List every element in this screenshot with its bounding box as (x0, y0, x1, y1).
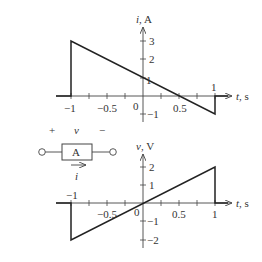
bottom-ytick-neg2: −2 (147, 234, 159, 246)
top-ytick-1: 1 (146, 74, 152, 86)
current-label: i (75, 170, 78, 182)
bottom-xtick-0: 0 (134, 206, 140, 218)
top-xtick-0: 0 (133, 100, 139, 112)
bottom-ytick-2: 2 (149, 161, 155, 173)
bottom-ytick-neg1: −1 (147, 215, 159, 227)
bottom-ytick-1: 1 (149, 179, 155, 191)
current-plot: i, A t, s −1 −0.5 0 0.5 1 3 2 1 −1 (56, 13, 249, 122)
top-x-label: t, s (236, 90, 249, 102)
bottom-xtick-neg05: −0.5 (97, 208, 117, 220)
bottom-x-label: t, s (236, 197, 249, 209)
bottom-xtick-neg1: −1 (66, 189, 78, 201)
top-ytick-3: 3 (149, 35, 155, 47)
top-ytick-neg1: −1 (147, 108, 159, 120)
minus-sign: − (99, 124, 105, 136)
left-terminal (39, 149, 46, 156)
voltage-waveform (56, 167, 228, 240)
top-xtick-neg1: −1 (64, 102, 76, 114)
current-waveform (56, 41, 228, 114)
top-y-label: i, A (136, 13, 152, 25)
top-xtick-05: 0.5 (173, 102, 187, 114)
element-label: A (72, 146, 80, 158)
figure: i, A t, s −1 −0.5 0 0.5 1 3 2 1 −1 + v −… (0, 0, 262, 262)
bottom-xtick-1: 1 (212, 208, 218, 220)
bottom-xtick-05: 0.5 (172, 208, 186, 220)
top-xtick-1: 1 (211, 81, 217, 93)
voltage-label: v (74, 124, 79, 136)
right-terminal (110, 149, 117, 156)
top-ytick-2: 2 (149, 53, 155, 65)
bottom-y-label: v, V (136, 140, 154, 152)
circuit-element: + v − A i (39, 124, 117, 182)
top-xtick-neg05: −0.5 (97, 102, 117, 114)
plus-sign: + (49, 124, 55, 136)
